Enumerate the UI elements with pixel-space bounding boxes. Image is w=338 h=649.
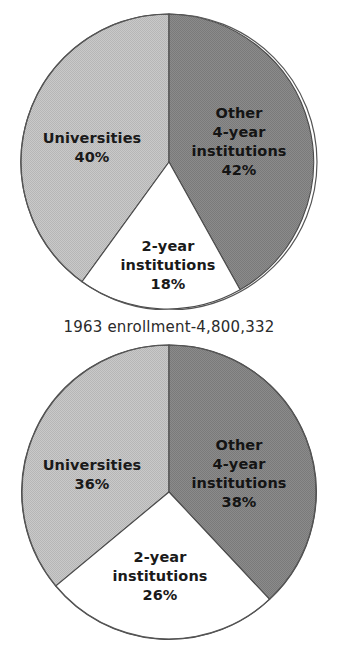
label-other-line2: 4-year <box>213 124 267 140</box>
label-universities-value: 36% <box>74 476 109 492</box>
label-other-value: 42% <box>221 162 256 178</box>
label-2year-line1: 2-year <box>134 549 188 565</box>
label-universities: Universities <box>43 457 142 473</box>
label-2year-value: 18% <box>150 276 185 292</box>
label-universities-value: 40% <box>74 149 109 165</box>
pie-chart-1963-svg: Universities 40% Other 4-year institutio… <box>0 10 338 310</box>
chart-caption-1963: 1963 enrollment-4,800,332 <box>0 318 338 336</box>
label-other-line1: Other <box>215 105 263 121</box>
label-other-value: 38% <box>221 494 256 510</box>
label-other-line3: institutions <box>191 475 286 491</box>
label-other-line1: Other <box>215 437 263 453</box>
label-2year-value: 26% <box>142 587 177 603</box>
label-other-line2: 4-year <box>213 456 267 472</box>
label-universities: Universities <box>43 130 142 146</box>
label-other-line3: institutions <box>191 143 286 159</box>
label-2year-line2: institutions <box>112 568 207 584</box>
label-2year-line1: 2-year <box>142 238 196 254</box>
pie-chart-second: Universities 36% Other 4-year institutio… <box>0 340 338 640</box>
pie-chart-1963: Universities 40% Other 4-year institutio… <box>0 10 338 315</box>
pie-chart-second-svg: Universities 36% Other 4-year institutio… <box>0 340 338 640</box>
label-2year-line2: institutions <box>120 257 215 273</box>
